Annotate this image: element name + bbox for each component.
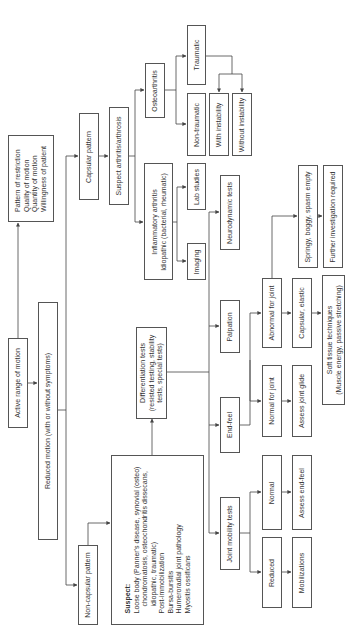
osteoarthritis-label: Osteoarthritis: [151, 70, 160, 112]
imaging-label: Imaging: [192, 249, 201, 274]
pattern-box: Pattern of restriction Quality of motion…: [8, 135, 54, 222]
suspect-line: Post-immobilization: [158, 467, 167, 614]
differentiation-line: (resisted testing, stability: [147, 335, 156, 412]
pattern-line: Quantity of motion: [31, 145, 40, 211]
reduced-motion-box: Reduced motion (with or without symptoms…: [38, 302, 58, 540]
suspect-heading: Suspect:: [124, 467, 133, 614]
abnormal-joint-box: Abnormal for joint: [262, 278, 282, 348]
end-feel-label: End-feel: [226, 412, 235, 438]
normal-joint-label: Normal for joint: [268, 377, 277, 424]
joint-mobility-label: Joint mobility tests: [226, 505, 235, 562]
suspect-line: chondromatosis, osteochondritis dissecan…: [141, 467, 150, 614]
differentiation-box: Differentiation tests (resisted testing,…: [136, 327, 167, 419]
assess-end-feel-box: Assess end-feel: [292, 455, 312, 530]
normal-label: Normal: [268, 481, 277, 504]
springy-label: Springy, boggy, spasm empty: [304, 171, 313, 262]
non-capsular-box: Non-capsular pattern: [78, 545, 98, 625]
without-instability-label: Without instability: [238, 97, 247, 151]
abnormal-joint-label: Abnormal for joint: [268, 286, 277, 341]
neurodynamic-box: Neurodynamic tests: [220, 175, 240, 250]
pattern-line: Quality of motion: [23, 145, 32, 211]
reduced-motion-label: Reduced motion (with or without symptoms…: [44, 353, 53, 489]
reduced-box: Reduced: [262, 537, 282, 608]
palpation-box: Palpation: [220, 300, 240, 353]
differentiation-line: Differentiation tests: [139, 335, 148, 412]
end-feel-box: End-feel: [220, 397, 240, 453]
pattern-line: Pattern of restriction: [14, 145, 23, 211]
without-instability-box: Without instability: [232, 93, 252, 156]
further-investigation-box: Further investigation required: [323, 165, 343, 268]
neurodynamic-label: Neurodynamic tests: [226, 182, 235, 244]
with-instability-label: With instability: [215, 102, 224, 147]
suspect-arthritis-box: Suspect arthritis/arthrosis: [109, 107, 129, 205]
suspect-line: Myositis ossificans: [183, 467, 192, 614]
non-traumatic-box: Non-traumatic: [187, 93, 206, 156]
traumatic-label: Traumatic: [192, 40, 201, 71]
suspect-line: idiopathic, traumatic): [149, 467, 158, 614]
mobilizations-box: Mobilizations: [292, 537, 312, 608]
capsular-pattern-box: Capsular pattern: [79, 113, 99, 200]
lab-studies-box: Lab studies: [187, 163, 206, 210]
assess-glide-box: Assess joint glide: [292, 365, 312, 437]
pattern-line: Willingness of patient: [40, 145, 49, 211]
inflammatory-box: Inflammatory arthritis Idiopathic (bacte…: [144, 163, 173, 280]
capsular-elastic-box: Capsular, elastic: [292, 278, 312, 348]
soft-tissue-box: Soft tissue techniques (Muscle energy, p…: [322, 275, 345, 405]
assess-glide-label: Assess joint glide: [298, 374, 307, 428]
non-traumatic-label: Non-traumatic: [192, 103, 201, 147]
active-rom-box: Active range of motion: [8, 338, 28, 428]
suspect-box: Suspect: Loose body (Panner's disease, s…: [111, 455, 204, 625]
inflammatory-line: Inflammatory arthritis: [150, 173, 159, 271]
normal-joint-box: Normal for joint: [262, 365, 282, 437]
with-instability-box: With instability: [209, 93, 229, 156]
assess-end-feel-label: Assess end-feel: [298, 468, 307, 518]
suspect-line: Bursa-bursitis: [166, 467, 175, 614]
reduced-label: Reduced: [268, 558, 277, 586]
soft-tissue-line: (Muscle energy, passive stretching): [334, 285, 343, 395]
suspect-line: Loose body (Panner's disease, synovial (…: [132, 467, 141, 614]
palpation-label: Palpation: [226, 312, 235, 341]
soft-tissue-line: Soft tissue techniques: [325, 285, 334, 395]
inflammatory-line: Idiopathic (bacterial, rheumatic): [159, 173, 168, 271]
imaging-box: Imaging: [187, 243, 206, 280]
suspect-arthritis-label: Suspect arthritis/arthrosis: [115, 117, 124, 196]
suspect-line: Humeroradial joint pathology: [175, 467, 184, 614]
further-investigation-label: Further investigation required: [329, 171, 338, 262]
osteoarthritis-box: Osteoarthritis: [145, 63, 165, 118]
normal-box: Normal: [262, 455, 282, 530]
capsular-elastic-label: Capsular, elastic: [298, 287, 307, 338]
lab-studies-label: Lab studies: [192, 169, 201, 205]
springy-box: Springy, boggy, spasm empty: [298, 165, 318, 268]
active-rom-label: Active range of motion: [14, 348, 23, 418]
capsular-pattern-label: Capsular pattern: [85, 131, 94, 183]
non-capsular-label: Non-capsular pattern: [84, 552, 93, 617]
mobilizations-label: Mobilizations: [298, 552, 307, 592]
traumatic-box: Traumatic: [187, 25, 206, 85]
differentiation-line: tests, special tests): [156, 335, 165, 412]
joint-mobility-box: Joint mobility tests: [220, 497, 240, 570]
